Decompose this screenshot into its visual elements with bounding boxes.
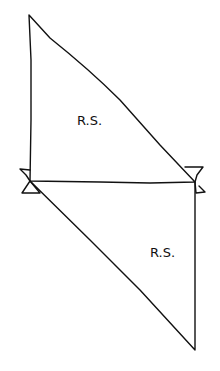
upper-label: R.S. bbox=[77, 113, 102, 128]
lower-triangle bbox=[30, 181, 195, 350]
lower-label: R.S. bbox=[150, 245, 175, 260]
right-joint-icon bbox=[185, 167, 205, 193]
truss-diagram: R.S. R.S. bbox=[0, 0, 220, 371]
upper-triangle bbox=[29, 15, 195, 183]
